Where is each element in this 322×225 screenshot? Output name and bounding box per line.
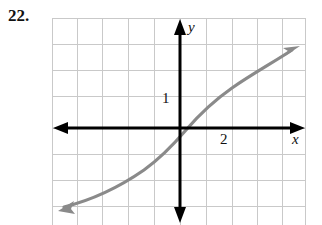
graph-canvas	[52, 18, 306, 225]
y-axis-label: y	[188, 19, 195, 36]
x-axis-arrow-left	[53, 122, 68, 134]
x-tick-label-two: 2	[220, 131, 228, 148]
y-axis-arrow-down	[174, 207, 186, 223]
exercise-figure: 22.	[0, 0, 322, 225]
coordinate-plane-svg	[52, 18, 306, 225]
x-axis-label: x	[292, 131, 299, 148]
problem-number: 22.	[8, 6, 29, 26]
y-axis-arrow-up	[174, 19, 186, 35]
axes	[53, 19, 305, 223]
curve-arrow-left	[58, 201, 75, 214]
y-tick-label-one: 1	[162, 90, 170, 107]
